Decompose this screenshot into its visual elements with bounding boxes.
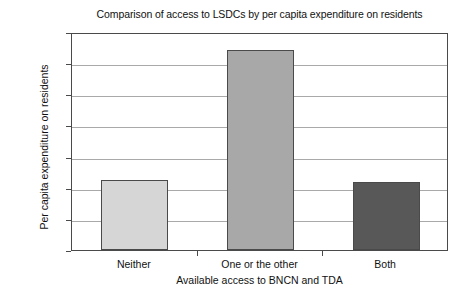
chart-title: Comparison of access to LSDCs by per cap… xyxy=(71,8,448,21)
y-tick-mark xyxy=(66,251,71,252)
x-tick-mark xyxy=(197,251,198,256)
x-tick-label: Neither xyxy=(71,258,197,271)
x-axis-title: Available access to BNCN and TDA xyxy=(71,274,448,287)
plot-area xyxy=(71,33,448,251)
bar-one-or-the-other xyxy=(227,50,294,250)
y-tick-mark xyxy=(66,33,71,34)
y-tick-mark xyxy=(66,64,71,65)
y-tick-mark xyxy=(66,189,71,190)
x-tick-label: One or the other xyxy=(197,258,323,271)
bar-both xyxy=(353,182,420,251)
x-tick-label: Both xyxy=(322,258,448,271)
y-axis-title: Per capita expenditure on residents xyxy=(38,37,50,257)
x-tick-mark xyxy=(322,251,323,256)
y-tick-mark xyxy=(66,95,71,96)
bar-neither xyxy=(101,180,168,250)
bar-chart: Comparison of access to LSDCs by per cap… xyxy=(0,0,470,294)
y-tick-mark xyxy=(66,126,71,127)
y-tick-mark xyxy=(66,220,71,221)
y-tick-mark xyxy=(66,158,71,159)
